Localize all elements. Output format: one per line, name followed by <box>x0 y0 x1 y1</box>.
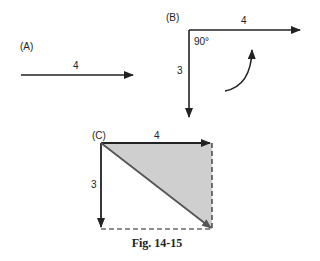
rotation-arrow-icon <box>225 50 252 91</box>
right-angle-label: 90° <box>194 36 209 47</box>
panel-c: (C) 4 3 <box>91 130 212 229</box>
vertical-vector-magnitude: 3 <box>177 65 183 76</box>
panel-a: (A) 4 <box>20 41 133 75</box>
panel-b-label: (B) <box>166 12 179 23</box>
c-horizontal-magnitude: 4 <box>154 130 160 141</box>
figure-caption: Fig. 14-15 <box>132 236 183 250</box>
figure-canvas: (A) 4 (B) 4 90° 3 (C) 4 3 Fig. 14-15 <box>0 0 320 261</box>
panel-c-label: (C) <box>92 130 106 141</box>
vector-a-magnitude: 4 <box>73 60 79 71</box>
horizontal-vector-magnitude: 4 <box>241 15 247 26</box>
panel-b: (B) 4 90° 3 <box>166 12 300 117</box>
panel-a-label: (A) <box>20 41 33 52</box>
c-vertical-magnitude: 3 <box>91 179 97 190</box>
